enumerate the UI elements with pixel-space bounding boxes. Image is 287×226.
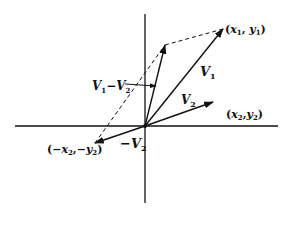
label-v2: V2 (181, 93, 196, 109)
dashed-edge-top (165, 29, 223, 45)
vector-diagram: V1 V2 −V2 V1−V2 (x1, y1) (x2,y2) (−x2,−y… (0, 0, 287, 226)
label-point-x1-y1: (x1, y1) (225, 23, 266, 37)
label-v1: V1 (200, 64, 216, 81)
label-v1-minus-v2: V1−V2 (92, 79, 131, 95)
origin-point (143, 124, 147, 128)
label-neg-v2: −V2 (120, 136, 147, 153)
label-point-x2-y2: (x2,y2) (226, 108, 263, 122)
label-point-neg-x2-neg-y2: (−x2,−y2) (47, 143, 102, 157)
